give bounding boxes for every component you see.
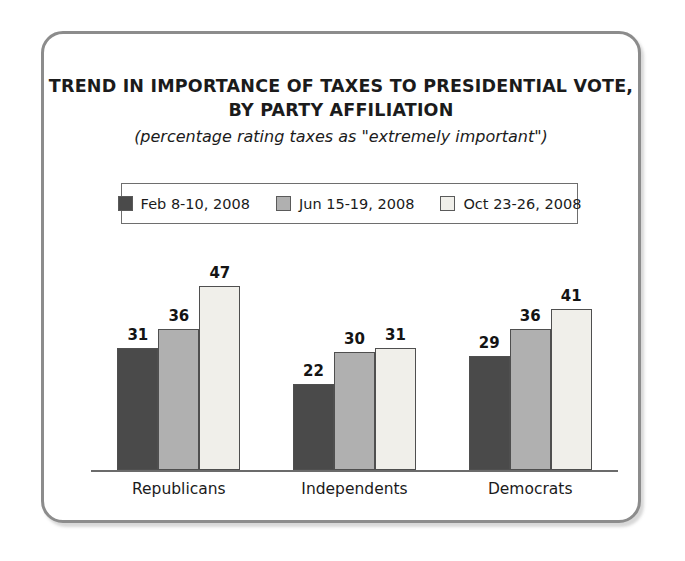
bar-column: 29	[469, 266, 510, 470]
bar-column: 30	[334, 266, 375, 470]
bar[interactable]	[293, 384, 334, 470]
legend-item-oct[interactable]: Oct 23-26, 2008	[440, 196, 581, 212]
bar-value-label: 41	[551, 287, 592, 305]
bar-column: 36	[510, 266, 551, 470]
chart-subtitle: (percentage rating taxes as "extremely i…	[44, 126, 638, 148]
chart-title-block: TREND IN IMPORTANCE OF TAXES TO PRESIDEN…	[44, 74, 638, 148]
legend-swatch-icon-oct	[440, 196, 455, 211]
bar[interactable]	[469, 356, 510, 470]
bar-value-label: 36	[510, 307, 551, 325]
bar-column: 36	[158, 266, 199, 470]
bar-value-label: 31	[117, 326, 158, 344]
chart-frame: TREND IN IMPORTANCE OF TAXES TO PRESIDEN…	[41, 31, 641, 523]
bar[interactable]	[334, 352, 375, 470]
bar-column: 47	[199, 266, 240, 470]
bar-column: 31	[375, 266, 416, 470]
page-title-line-2: BY PARTY AFFILIATION	[44, 98, 638, 122]
plot-area: 313647223031293641	[91, 266, 618, 472]
legend-swatch-icon-feb	[118, 196, 133, 211]
bar-value-label: 29	[469, 334, 510, 352]
category-label: Independents	[267, 480, 443, 498]
legend-swatch-icon-jun	[276, 196, 291, 211]
bar-value-label: 22	[293, 362, 334, 380]
legend-item-feb[interactable]: Feb 8-10, 2008	[118, 196, 250, 212]
bar-group: 293641	[442, 266, 618, 470]
legend-item-jun[interactable]: Jun 15-19, 2008	[276, 196, 415, 212]
bar[interactable]	[199, 286, 240, 470]
page-title-line-1: TREND IN IMPORTANCE OF TAXES TO PRESIDEN…	[44, 74, 638, 98]
bar-value-label: 31	[375, 326, 416, 344]
bar-column: 31	[117, 266, 158, 470]
bar[interactable]	[510, 329, 551, 470]
bar-group: 313647	[91, 266, 267, 470]
bar[interactable]	[551, 309, 592, 470]
bar-groups: 313647223031293641	[91, 266, 618, 470]
category-label: Democrats	[442, 480, 618, 498]
x-axis-category-labels: RepublicansIndependentsDemocrats	[91, 480, 618, 498]
x-axis-line	[91, 470, 618, 472]
bar-value-label: 30	[334, 330, 375, 348]
bar-value-label: 36	[158, 307, 199, 325]
legend-label-jun: Jun 15-19, 2008	[299, 196, 415, 212]
bar[interactable]	[117, 348, 158, 470]
chart-legend: Feb 8-10, 2008 Jun 15-19, 2008 Oct 23-26…	[121, 183, 578, 224]
legend-label-feb: Feb 8-10, 2008	[141, 196, 250, 212]
bar-column: 22	[293, 266, 334, 470]
bar[interactable]	[158, 329, 199, 470]
bar-value-label: 47	[199, 264, 240, 282]
bar-group: 223031	[267, 266, 443, 470]
bar[interactable]	[375, 348, 416, 470]
category-label: Republicans	[91, 480, 267, 498]
bar-column: 41	[551, 266, 592, 470]
legend-label-oct: Oct 23-26, 2008	[463, 196, 581, 212]
